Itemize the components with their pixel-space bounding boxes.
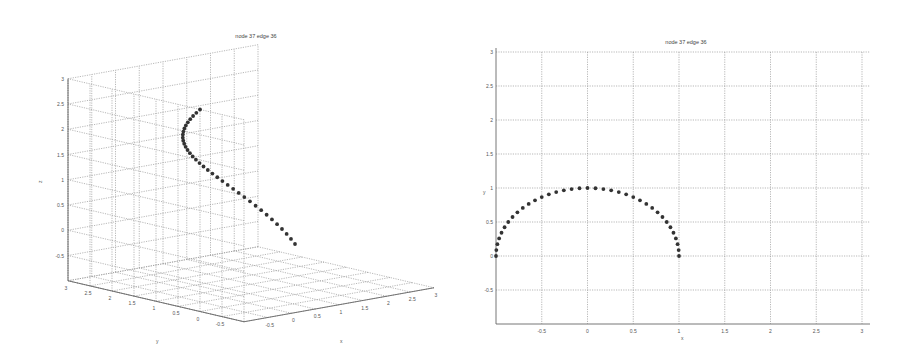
z-tick-label: 3 [61,76,64,82]
x-tick-label: 1.5 [721,328,728,334]
data-point [206,168,210,172]
data-point [293,242,297,246]
data-point [656,210,660,214]
y-tick-label: 1.5 [129,300,136,306]
back-wall-grid-line [68,121,258,155]
plot-3d-grid [68,45,434,322]
x-tick-label: -0.5 [265,322,274,328]
plot-2d-title: node 37 edge 36 [665,39,706,45]
data-point [188,117,192,121]
z-tick-label: 2 [61,126,64,132]
x-tick-label: 3 [861,328,864,334]
data-point [198,161,202,165]
data-point [578,186,582,190]
z-tick-label: 2.5 [57,101,64,107]
data-point [495,242,499,246]
z-tick-label: -0.5 [55,253,64,259]
back-wall-grid-line [68,171,258,205]
data-point [259,208,263,212]
y-axis [68,281,244,322]
data-point [601,187,605,191]
data-point [285,232,289,236]
z-tick-label: 0 [61,227,64,233]
plot-3d: node 37 edge 36 32.521.510.50-0.5-0.500.… [37,33,438,344]
data-point [650,206,654,210]
data-point [211,172,215,176]
plot-3d-tick-labels: 32.521.510.50-0.5-0.500.511.522.5332.521… [55,76,437,328]
data-point [631,195,635,199]
data-point [494,254,498,258]
x-tick-label: 0 [586,328,589,334]
data-point [511,215,515,219]
x-axis [244,288,434,322]
y-tick-label: 3 [490,49,493,55]
data-point [586,186,590,190]
data-point [669,225,673,229]
data-point [594,186,598,190]
data-point [506,220,510,224]
plot-3d-ylabel: y [156,338,159,344]
data-point [500,231,504,235]
floor-grid-line [156,267,346,301]
y-tick-label: 0 [197,316,200,322]
data-point [220,179,224,183]
x-tick-label: 1 [678,328,681,334]
plot-2d-tick-labels: -0.500.511.522.5332.521.510.50-0.5 [484,49,863,334]
floor-grid-line [90,252,280,286]
data-point [186,120,190,124]
data-point [280,227,284,231]
data-point [275,222,279,226]
data-point [254,204,258,208]
data-point [494,248,498,252]
y-tick-label: 3 [65,285,68,291]
data-point [570,187,574,191]
plot-2d: node 37 edge 36 -0.500.511.522.5332.521.… [483,39,870,341]
data-point [554,190,558,194]
data-point [676,242,680,246]
data-point [191,114,195,118]
y-tick-label: 1.5 [486,151,493,157]
z-tick-label: 1.5 [57,152,64,158]
x-tick-label: 2.5 [813,328,820,334]
data-point [533,198,537,202]
data-point [677,254,681,258]
data-point [270,218,274,222]
plot-3d-title: node 37 edge 36 [235,33,276,39]
data-point [237,191,241,195]
back-wall-grid-line [68,70,258,104]
data-point [194,111,198,115]
data-point [672,231,676,235]
data-point [540,195,544,199]
data-point [644,202,648,206]
data-point [665,220,669,224]
data-point [516,210,520,214]
x-tick-label: 1 [340,309,343,315]
data-point [202,165,206,169]
data-point [677,248,681,252]
plot-3d-zlabel: z [37,180,43,183]
y-tick-label: 1 [490,185,493,191]
data-point [497,237,501,241]
data-point [198,108,202,112]
data-point [248,199,252,203]
data-point [638,198,642,202]
y-tick-label: 1 [153,305,156,311]
z-tick-label: 0.5 [57,202,64,208]
data-point [547,192,551,196]
y-tick-label: 0 [490,253,493,259]
data-point [503,225,507,229]
figure-canvas: node 37 edge 36 32.521.510.50-0.5-0.500.… [0,0,923,355]
data-point [188,151,192,155]
x-tick-label: 0.5 [314,313,321,319]
data-point [231,187,235,191]
x-tick-label: 1.5 [361,305,368,311]
data-point [562,188,566,192]
data-point [215,175,219,179]
y-tick-label: 2.5 [85,290,92,296]
x-tick-label: 0 [292,317,295,323]
plot-2d-ylabel: y [483,189,486,195]
data-point [289,237,293,241]
y-tick-label: 2 [109,295,112,301]
data-point [624,192,628,196]
x-tick-label: 2 [769,328,772,334]
